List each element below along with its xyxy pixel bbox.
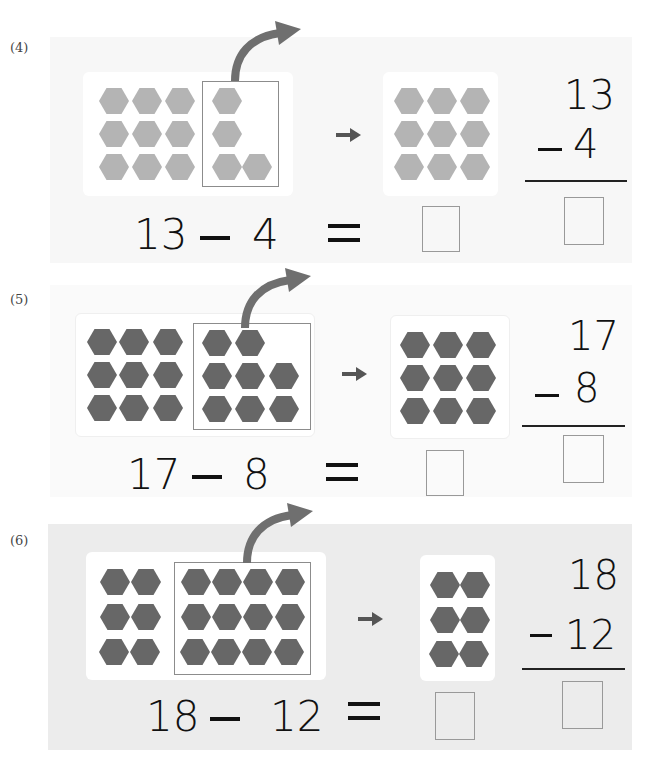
problem-6-vertical-top: 18 (568, 555, 619, 595)
problem-4-equation-a: 13 (134, 214, 187, 256)
problem-5-vertical-top: 17 (568, 316, 619, 356)
problem-5-vertical-bottom: 8 (574, 368, 599, 408)
problem-6-equation-a: 18 (146, 696, 199, 738)
problem-6-equation-b: 12 (270, 696, 323, 738)
problem-4-equation-b: 4 (252, 214, 279, 256)
problem-5-equals-sign (326, 463, 358, 483)
problem-4-vertical-bottom: 4 (573, 124, 598, 164)
problem-6-sum-line (522, 668, 625, 670)
problem-6-equation-minus (210, 717, 240, 721)
problem-5-label: (5) (10, 292, 28, 307)
problem-4-answer-box[interactable] (422, 206, 460, 252)
curved-arrow-icon (237, 497, 317, 567)
problem-4-vertical-top: 13 (564, 75, 615, 115)
problem-5-vertical-answer-box[interactable] (563, 435, 604, 483)
problem-5-equation-a: 17 (127, 454, 180, 496)
problem-5-vertical-minus (535, 394, 559, 397)
curved-arrow-icon (225, 15, 305, 85)
problem-4-equation-minus (200, 236, 230, 240)
problem-6-equals-sign (348, 702, 380, 722)
right-arrow-icon (342, 366, 368, 382)
problem-5-answer-box[interactable] (426, 450, 464, 496)
problem-4-label: (4) (10, 40, 28, 55)
problem-6-vertical-minus (530, 634, 552, 637)
problem-4-equals-sign (328, 224, 360, 244)
problem-5-sum-line (522, 425, 625, 427)
problem-6-vertical-bottom: 12 (565, 615, 616, 655)
problem-4-vertical-answer-box[interactable] (564, 197, 604, 245)
curved-arrow-icon (235, 262, 315, 332)
right-arrow-icon (358, 611, 384, 627)
problem-6-vertical-answer-box[interactable] (562, 681, 603, 729)
right-arrow-icon (336, 127, 362, 143)
problem-4-vertical-minus (538, 148, 562, 151)
problem-5-equation-minus (192, 475, 222, 479)
problem-6-answer-box[interactable] (435, 692, 475, 740)
problem-6-label: (6) (10, 533, 28, 548)
problem-5-equation-b: 8 (243, 454, 270, 496)
problem-4-sum-line (525, 180, 627, 182)
